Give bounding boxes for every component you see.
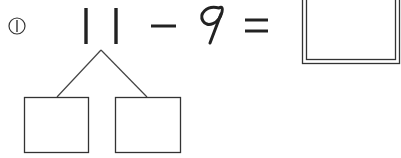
decomposition-left-box[interactable] (25, 98, 89, 153)
decomposition-branches (57, 50, 147, 97)
decomposition-right-box[interactable] (116, 98, 181, 153)
equals-sign (245, 20, 268, 31)
answer-box[interactable] (303, 0, 400, 64)
operand1-number (86, 8, 116, 44)
operand2-number (202, 7, 222, 43)
problem-index (9, 18, 25, 34)
worksheet-canvas (0, 0, 401, 158)
